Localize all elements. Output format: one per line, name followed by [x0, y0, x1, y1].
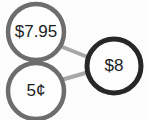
edge-price795-to-price8	[60, 46, 90, 58]
node-price-8-label: $8	[105, 56, 124, 75]
node-price-5c-label: 5¢	[27, 81, 46, 100]
node-price-8[interactable]: $8	[87, 39, 141, 93]
diagram-canvas: $7.95 5¢ $8	[0, 0, 148, 120]
price-comparison-diagram: $7.95 5¢ $8	[0, 0, 148, 120]
node-price-795-label: $7.95	[15, 22, 58, 41]
edge-price5c-to-price8	[61, 72, 89, 80]
node-price-795[interactable]: $7.95	[8, 4, 64, 60]
node-price-5c[interactable]: 5¢	[8, 63, 64, 119]
